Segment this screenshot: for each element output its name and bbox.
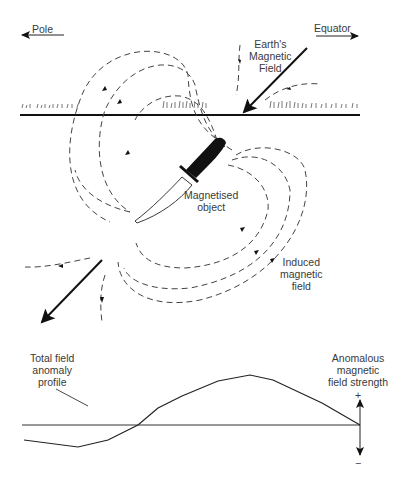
- anomalous-line-2: magnetic: [328, 364, 388, 376]
- pole-label: Pole: [32, 23, 53, 35]
- field-exit-arrow-icon: [42, 260, 102, 322]
- induced-line-2: magnetic: [280, 268, 323, 280]
- plus-sign: +: [355, 389, 361, 401]
- object-label: Magnetised object: [184, 189, 238, 213]
- diagram-canvas: [0, 0, 406, 480]
- profile-label: Total field anomaly profile: [30, 352, 74, 388]
- equator-label: Equator: [314, 22, 351, 34]
- object-line-1: Magnetised: [184, 189, 238, 201]
- induced-field-lines: [25, 45, 320, 322]
- minus-sign: −: [355, 457, 361, 469]
- induced-line-1: Induced: [280, 256, 323, 268]
- anomalous-strength-label: Anomalous magnetic field strength: [328, 352, 388, 388]
- earth-field-label: Earth's Magnetic Field: [249, 38, 292, 74]
- object-line-2: object: [184, 201, 238, 213]
- profile-line-2: anomaly: [30, 364, 74, 376]
- induced-field-label: Induced magnetic field: [280, 256, 323, 292]
- profile-line-1: Total field: [30, 352, 74, 364]
- anomalous-line-1: Anomalous: [328, 352, 388, 364]
- induced-line-3: field: [280, 280, 323, 292]
- profile-line-3: profile: [30, 376, 74, 388]
- earth-field-line-3: Field: [249, 62, 292, 74]
- earth-field-line-1: Earth's: [249, 38, 292, 50]
- anomalous-line-3: field strength: [328, 376, 388, 388]
- earth-field-line-2: Magnetic: [249, 50, 292, 62]
- ground-surface: [20, 101, 360, 115]
